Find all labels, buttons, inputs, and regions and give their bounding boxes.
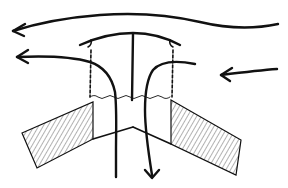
vent-stem (132, 34, 133, 100)
vent-cap (80, 33, 180, 47)
right-inflow-arrow (221, 68, 277, 81)
roof-vent-airflow-diagram (0, 0, 288, 188)
